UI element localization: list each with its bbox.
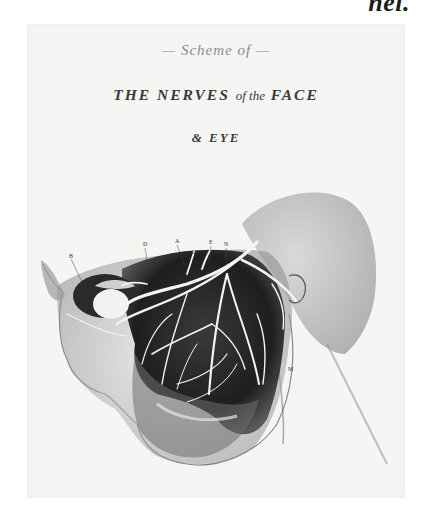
label-d: D [143, 241, 147, 247]
label-b: B [69, 253, 73, 259]
engraving-plate: — Scheme of — THE NERVES of the FACE & E… [27, 24, 405, 498]
label-3: 3 [208, 254, 211, 260]
label-n: N [224, 241, 228, 247]
face-nerves-illustration [27, 24, 405, 498]
label-m: M [288, 366, 293, 372]
label-e: E [209, 239, 213, 245]
label-2: 2 [193, 249, 196, 255]
label-a: A [175, 238, 179, 244]
label-4: 4 [223, 254, 226, 260]
page-caption-fragment: nel. [368, 0, 410, 18]
eyeball [93, 289, 129, 319]
